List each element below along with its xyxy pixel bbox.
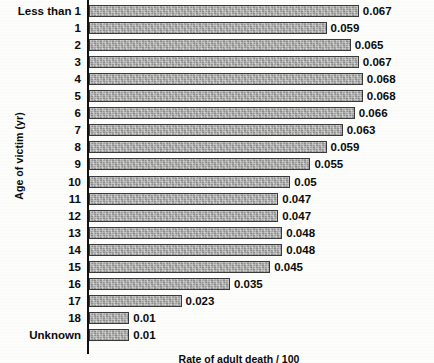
bar	[89, 141, 327, 153]
bar-row: 120.047	[0, 209, 434, 226]
bar	[89, 5, 359, 17]
bar	[89, 107, 355, 119]
bar-row: 70.063	[0, 123, 434, 140]
category-label: 14	[0, 244, 81, 257]
bar-row: 50.068	[0, 89, 434, 106]
category-label: Less than 1	[0, 5, 81, 18]
bar-row: 130.048	[0, 226, 434, 243]
bar-row: Unknown0.01	[0, 328, 434, 345]
category-label: 10	[0, 176, 81, 189]
bar-row: 90.055	[0, 157, 434, 174]
bar-row: 110.047	[0, 192, 434, 209]
bar-row: 80.059	[0, 140, 434, 157]
bar	[89, 312, 129, 324]
bar-row: 20.065	[0, 38, 434, 55]
bar-value-label: 0.066	[359, 106, 388, 120]
plot-area: Less than 10.06710.05920.06530.06740.068…	[0, 0, 434, 363]
bar-value-label: 0.035	[234, 277, 263, 291]
category-label: 18	[0, 312, 81, 325]
bar	[89, 90, 363, 102]
bar	[89, 329, 129, 341]
category-label: 5	[0, 90, 81, 103]
category-label: 8	[0, 141, 81, 154]
bar-value-label: 0.048	[286, 226, 315, 240]
x-axis-title: Rate of adult death / 100	[89, 353, 389, 363]
bar-row: Less than 10.067	[0, 4, 434, 21]
bar-value-label: 0.067	[363, 55, 392, 69]
bar-value-label: 0.045	[274, 260, 303, 274]
bar-row: 150.045	[0, 260, 434, 277]
bar-value-label: 0.055	[314, 157, 343, 171]
bar-row: 180.01	[0, 311, 434, 328]
category-label: 3	[0, 56, 81, 69]
category-label: 4	[0, 73, 81, 86]
bar	[89, 244, 282, 256]
bar-value-label: 0.065	[355, 38, 384, 52]
bar	[89, 176, 290, 188]
bar-value-label: 0.063	[347, 123, 376, 137]
category-label: 9	[0, 158, 81, 171]
bar-row: 40.068	[0, 72, 434, 89]
bar	[89, 278, 230, 290]
bar-row: 140.048	[0, 243, 434, 260]
bar-value-label: 0.01	[133, 328, 155, 342]
bar	[89, 210, 278, 222]
category-label: 6	[0, 107, 81, 120]
bar	[89, 193, 278, 205]
bar	[89, 73, 363, 85]
bar	[89, 22, 327, 34]
bar-row: 30.067	[0, 55, 434, 72]
bar-row: 160.035	[0, 277, 434, 294]
bar-row: 170.023	[0, 294, 434, 311]
bar-value-label: 0.048	[286, 243, 315, 257]
category-label: 12	[0, 210, 81, 223]
category-label: 7	[0, 124, 81, 137]
bar-value-label: 0.047	[282, 209, 311, 223]
bar	[89, 124, 343, 136]
category-label: 15	[0, 261, 81, 274]
bar	[89, 227, 282, 239]
bar	[89, 39, 351, 51]
bar-value-label: 0.059	[331, 140, 360, 154]
bar-row: 60.066	[0, 106, 434, 123]
bar-row: 10.059	[0, 21, 434, 38]
bar-value-label: 0.068	[367, 72, 396, 86]
category-label: 17	[0, 295, 81, 308]
bar-value-label: 0.059	[331, 21, 360, 35]
bar	[89, 295, 182, 307]
bar-value-label: 0.047	[282, 192, 311, 206]
category-label: 2	[0, 39, 81, 52]
category-label: 13	[0, 227, 81, 240]
bar-value-label: 0.05	[294, 175, 316, 189]
bar	[89, 261, 270, 273]
category-label: Unknown	[0, 329, 81, 342]
category-label: 1	[0, 22, 81, 35]
bar-value-label: 0.067	[363, 4, 392, 18]
bar-value-label: 0.01	[133, 311, 155, 325]
bar-row: 100.05	[0, 175, 434, 192]
bar-chart: Age of victim (yr) Less than 10.06710.05…	[0, 0, 434, 363]
category-label: 11	[0, 193, 81, 206]
bar	[89, 158, 310, 170]
bar-value-label: 0.068	[367, 89, 396, 103]
category-label: 16	[0, 278, 81, 291]
bar	[89, 56, 359, 68]
bar-value-label: 0.023	[186, 294, 215, 308]
